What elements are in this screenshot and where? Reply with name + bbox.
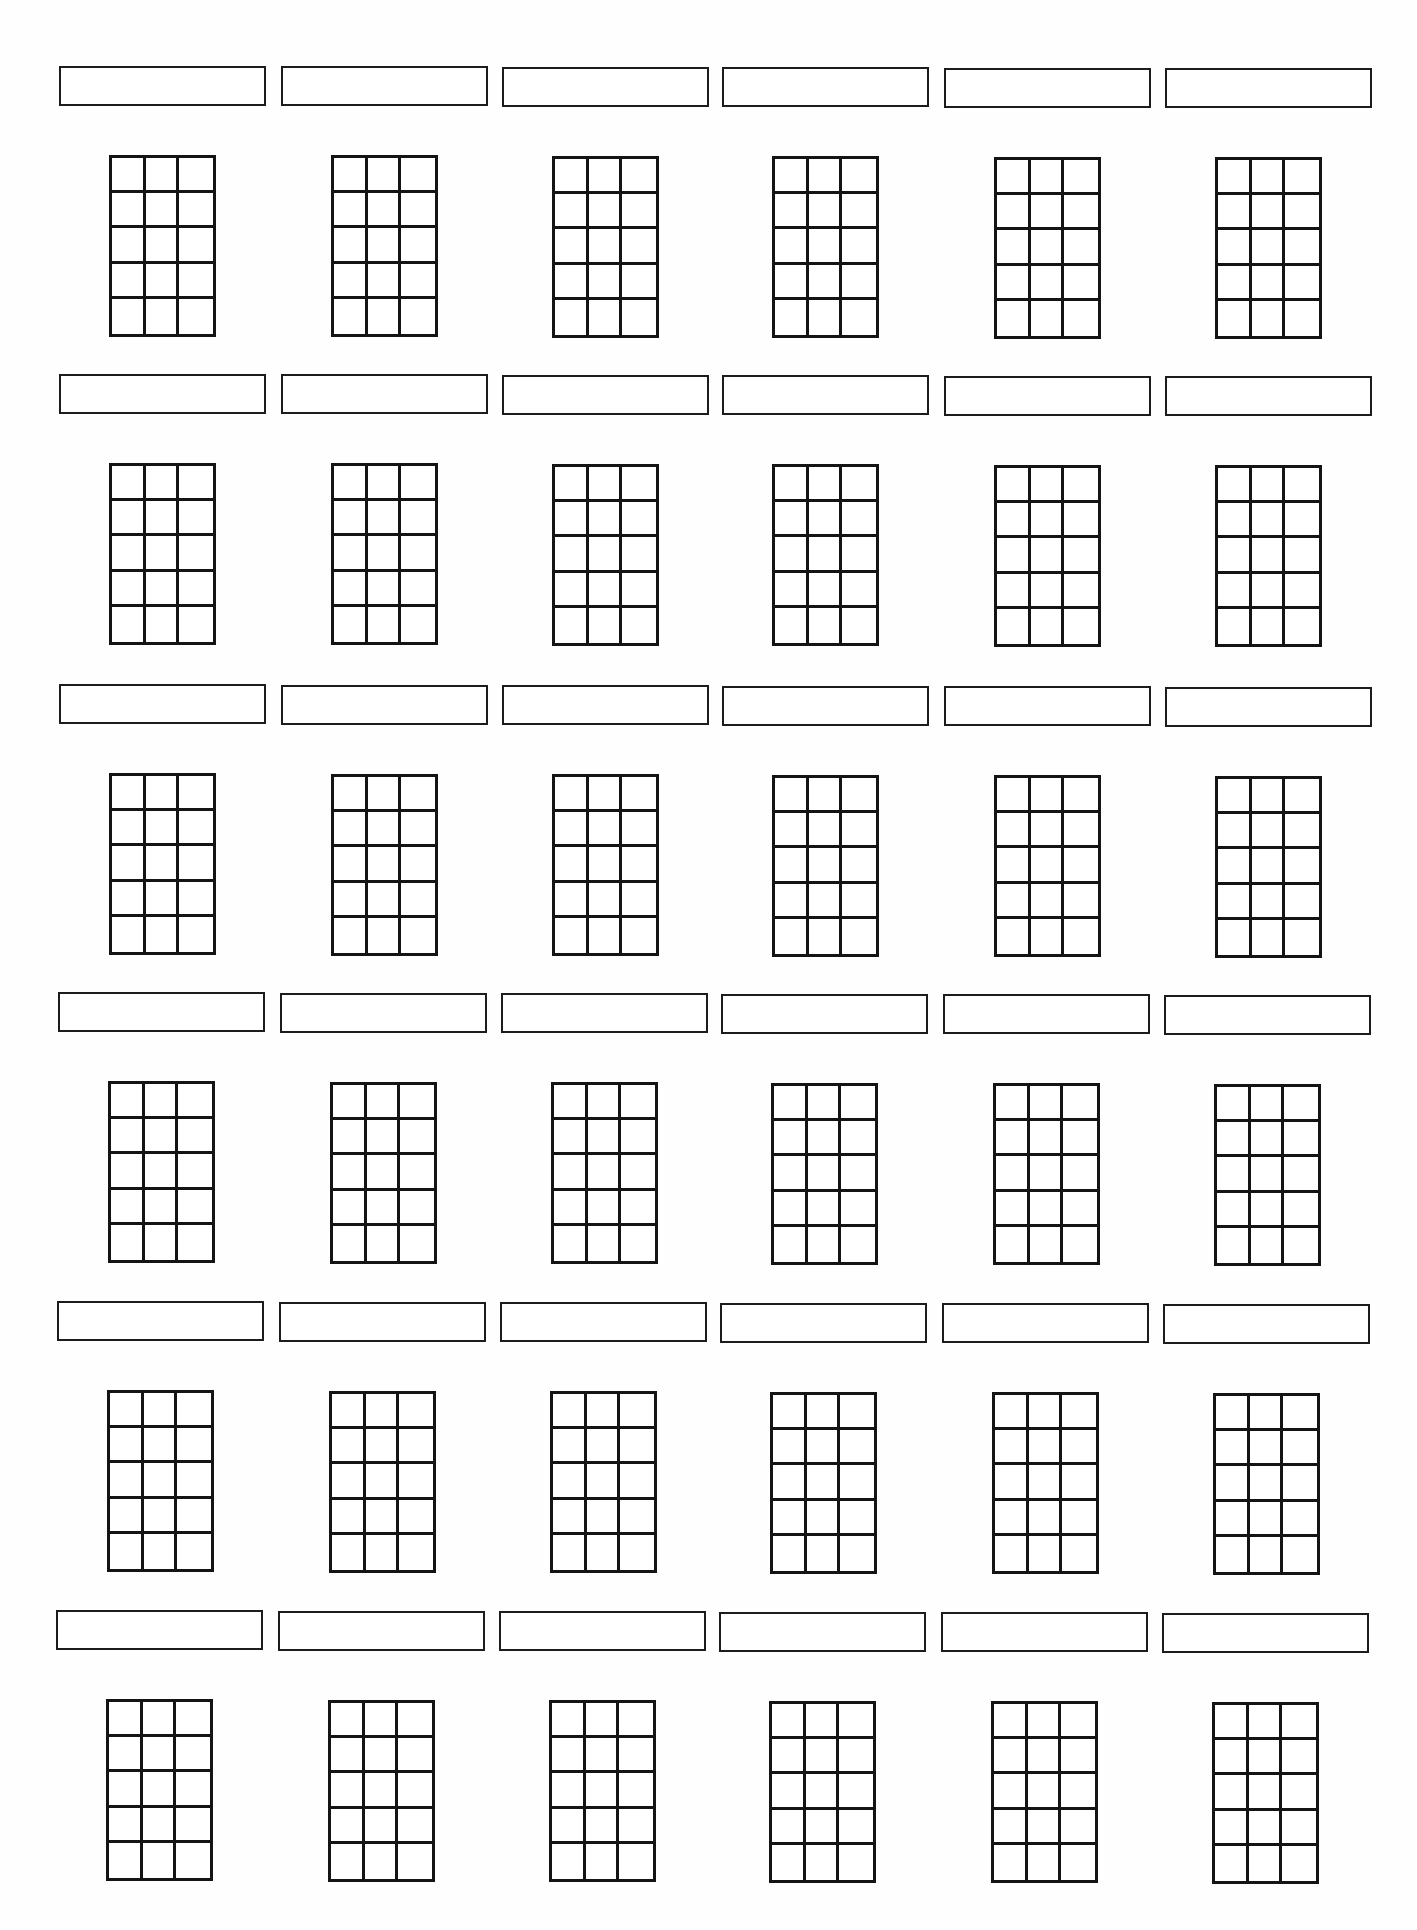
fret-cell: [179, 811, 213, 846]
chord-name-field[interactable]: [279, 1302, 486, 1342]
chord-name-field[interactable]: [281, 685, 488, 725]
fret-cell: [112, 811, 146, 846]
fret-cell: [1216, 1396, 1250, 1431]
fret-cell: [1218, 195, 1252, 230]
fret-cell: [1284, 1087, 1318, 1122]
chord-fretboard-diagram: [770, 1392, 877, 1574]
fret-cell: [109, 1737, 143, 1772]
fret-cell: [334, 536, 368, 571]
fret-cell: [841, 1156, 875, 1191]
fret-cell: [1284, 1122, 1318, 1157]
chord-name-field[interactable]: [1164, 995, 1371, 1035]
fret-cell: [333, 1226, 367, 1261]
chord-name-field[interactable]: [1165, 687, 1372, 727]
chord-name-field[interactable]: [57, 1301, 264, 1341]
chord-name-field[interactable]: [722, 686, 929, 726]
fret-cell: [553, 1429, 587, 1464]
chord-name-field[interactable]: [719, 1612, 926, 1652]
fret-cell: [333, 1120, 367, 1155]
fret-cell: [112, 917, 146, 952]
fret-cell: [1249, 1775, 1283, 1810]
fret-cell: [775, 884, 809, 919]
chord-name-field[interactable]: [720, 1303, 927, 1343]
chord-name-field[interactable]: [944, 376, 1151, 416]
fret-cell: [1064, 609, 1098, 644]
chord-fretboard-diagram: [994, 465, 1101, 647]
chord-name-field[interactable]: [59, 684, 266, 724]
fret-cell: [839, 1845, 873, 1880]
chord-name-field[interactable]: [721, 994, 928, 1034]
chord-name-field[interactable]: [944, 68, 1151, 108]
chord-name-field[interactable]: [722, 375, 929, 415]
fret-cell: [176, 1737, 210, 1772]
chord-fretboard-diagram: [1212, 1702, 1319, 1884]
chord-name-field[interactable]: [944, 686, 1151, 726]
chord-name-field[interactable]: [281, 66, 488, 106]
chord-name-field[interactable]: [722, 67, 929, 107]
chord-name-field[interactable]: [56, 1610, 263, 1650]
fret-cell: [589, 573, 623, 608]
chord-name-field[interactable]: [501, 993, 708, 1033]
chord-name-field[interactable]: [1165, 68, 1372, 108]
fret-cell: [1282, 1705, 1316, 1740]
chord-name-field[interactable]: [1165, 376, 1372, 416]
fret-cell: [588, 1191, 622, 1226]
fret-cell: [1030, 1156, 1064, 1191]
chord-name-field[interactable]: [941, 1612, 1148, 1652]
chord-name-field[interactable]: [500, 1302, 707, 1342]
fret-cell: [144, 1499, 178, 1534]
fret-cell: [809, 159, 843, 194]
fret-cell: [1062, 1465, 1096, 1500]
fret-cell: [773, 1430, 807, 1465]
chord-name-field[interactable]: [59, 66, 266, 106]
fret-cell: [808, 1121, 842, 1156]
chord-fretboard-diagram: [552, 464, 659, 646]
fret-cell: [586, 1703, 620, 1738]
fret-cell: [842, 919, 876, 954]
chord-name-field[interactable]: [942, 1303, 1149, 1343]
chord-fretboard-diagram: [330, 1082, 437, 1264]
fret-cell: [997, 884, 1031, 919]
fret-cell: [1029, 1536, 1063, 1571]
chord-name-field[interactable]: [1162, 1613, 1369, 1653]
fret-cell: [178, 1119, 212, 1154]
fret-cell: [146, 228, 180, 263]
chord-name-field[interactable]: [281, 374, 488, 414]
fret-cell: [1064, 230, 1098, 265]
fret-cell: [619, 1844, 653, 1879]
fret-cell: [111, 1084, 145, 1119]
fret-cell: [553, 1500, 587, 1535]
chord-name-field[interactable]: [278, 1611, 485, 1651]
fret-cell: [112, 158, 146, 193]
fret-cell: [1031, 503, 1065, 538]
chord-name-field[interactable]: [502, 685, 709, 725]
fret-cell: [331, 1703, 365, 1738]
chord-name-field[interactable]: [943, 994, 1150, 1034]
fret-cell: [1285, 920, 1319, 955]
fret-cell: [996, 1086, 1030, 1121]
fret-cell: [146, 811, 180, 846]
chord-name-field[interactable]: [58, 992, 265, 1032]
fret-cell: [842, 467, 876, 502]
fret-cell: [109, 1772, 143, 1807]
chord-name-field[interactable]: [59, 374, 266, 414]
fret-cell: [619, 1809, 653, 1844]
chord-name-field[interactable]: [499, 1611, 706, 1651]
fret-cell: [365, 1703, 399, 1738]
fret-cell: [144, 1428, 178, 1463]
fret-cell: [1218, 266, 1252, 301]
fret-cell: [840, 1395, 874, 1430]
fret-cell: [334, 228, 368, 263]
fret-cell: [1217, 1087, 1251, 1122]
fret-cell: [589, 467, 623, 502]
fret-cell: [145, 1225, 179, 1260]
fret-cell: [997, 301, 1031, 336]
fret-cell: [367, 1085, 401, 1120]
fret-cell: [1215, 1740, 1249, 1775]
chord-name-field[interactable]: [1163, 1304, 1370, 1344]
chord-name-field[interactable]: [502, 375, 709, 415]
chord-name-field[interactable]: [280, 993, 487, 1033]
chord-name-field[interactable]: [502, 67, 709, 107]
fret-cell: [1215, 1846, 1249, 1881]
fret-cell: [553, 1535, 587, 1570]
